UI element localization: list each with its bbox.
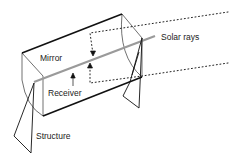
structure-label: Structure (36, 132, 71, 141)
receiver-label: Receiver (48, 89, 82, 98)
arrow-down-icon (91, 51, 96, 56)
mirror-label: Mirror (40, 54, 62, 63)
mirror-outline (22, 14, 142, 116)
solar-rays (90, 12, 228, 83)
ray-arrows (71, 51, 96, 86)
solar-rays-label: Solar rays (161, 33, 199, 42)
receiver-pointer-arrow-icon (71, 73, 75, 78)
arrow-up-icon (88, 63, 93, 68)
